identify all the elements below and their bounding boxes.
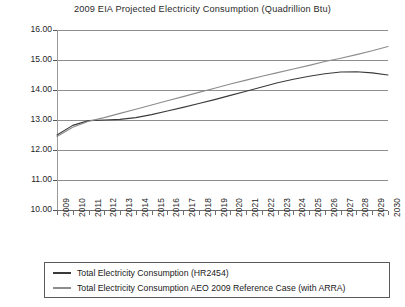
x-tick-mark: [136, 211, 137, 215]
x-tick-mark: [325, 211, 326, 215]
x-tick-mark: [246, 211, 247, 215]
x-tick-mark: [262, 211, 263, 215]
y-axis-tick-label: 12.00: [8, 144, 52, 154]
x-tick-mark: [104, 211, 105, 215]
x-tick-mark: [388, 211, 389, 215]
x-tick-mark: [57, 211, 58, 215]
legend-swatch-icon: [53, 272, 71, 274]
chart-legend: Total Electricity Consumption (HR2454)To…: [44, 262, 390, 298]
chart-title: 2009 EIA Projected Electricity Consumpti…: [0, 4, 405, 14]
x-tick-mark: [199, 211, 200, 215]
x-tick-mark: [73, 211, 74, 215]
legend-item-label: Total Electricity Consumption AEO 2009 R…: [77, 283, 345, 293]
series-line-1: [57, 47, 388, 137]
x-tick-mark: [89, 211, 90, 215]
legend-item[interactable]: Total Electricity Consumption AEO 2009 R…: [53, 281, 345, 295]
x-tick-mark: [356, 211, 357, 215]
legend-item-label: Total Electricity Consumption (HR2454): [77, 268, 229, 278]
legend-item[interactable]: Total Electricity Consumption (HR2454): [53, 266, 229, 280]
chart-container: 2009 EIA Projected Electricity Consumpti…: [0, 0, 405, 307]
x-tick-mark: [293, 211, 294, 215]
x-tick-mark: [372, 211, 373, 215]
x-tick-mark: [167, 211, 168, 215]
y-axis-tick-label: 14.00: [8, 84, 52, 94]
x-tick-mark: [309, 211, 310, 215]
y-axis-tick-label: 10.00: [8, 204, 52, 214]
x-axis-tick-label: 2030: [392, 198, 402, 217]
x-tick-mark: [278, 211, 279, 215]
y-axis-tick-label: 16.00: [8, 24, 52, 34]
x-tick-mark: [120, 211, 121, 215]
y-axis-tick-label: 11.00: [8, 174, 52, 184]
data-series-layer: [57, 30, 388, 210]
y-axis-tick-label: 15.00: [8, 54, 52, 64]
x-tick-mark: [341, 211, 342, 215]
x-tick-mark: [152, 211, 153, 215]
x-tick-mark: [230, 211, 231, 215]
y-axis-tick-label: 13.00: [8, 114, 52, 124]
legend-swatch-icon: [53, 287, 71, 289]
y-axis-labels: 10.0011.0012.0013.0014.0015.0016.00: [0, 30, 52, 210]
series-line-0: [57, 72, 388, 135]
x-tick-mark: [183, 211, 184, 215]
x-tick-mark: [215, 211, 216, 215]
